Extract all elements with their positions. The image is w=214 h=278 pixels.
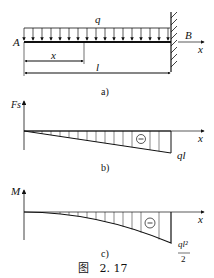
panel-a-beam: [24, 12, 204, 76]
x-axis-label-a: x: [198, 44, 203, 55]
moment-axis-label: M: [11, 186, 20, 197]
moment-end-denominator: 2: [181, 255, 186, 264]
caption-c: c): [101, 249, 109, 259]
wall-hatching: [171, 12, 177, 67]
load-q-label: q: [95, 14, 101, 25]
end-a-label: A: [13, 37, 20, 48]
distributed-load-arrows: [24, 28, 168, 40]
panel-c-moment-diagram: [24, 190, 204, 253]
shear-axis-label: Fs: [11, 100, 21, 110]
beam-diagram-figure: [0, 0, 214, 278]
caption-a: a): [101, 87, 109, 97]
shear-end-value: ql: [177, 150, 186, 161]
panel-b-shear-diagram: [24, 101, 204, 153]
distance-x-label: x: [51, 50, 56, 61]
caption-b: b): [101, 163, 109, 173]
x-axis-label-c: x: [198, 214, 203, 225]
length-l-label: l: [96, 62, 99, 73]
end-b-label: B: [185, 30, 192, 41]
figure-caption: 图 2. 17: [78, 263, 127, 274]
x-axis-label-b: x: [198, 133, 203, 144]
moment-end-numerator: ql²: [178, 240, 188, 249]
